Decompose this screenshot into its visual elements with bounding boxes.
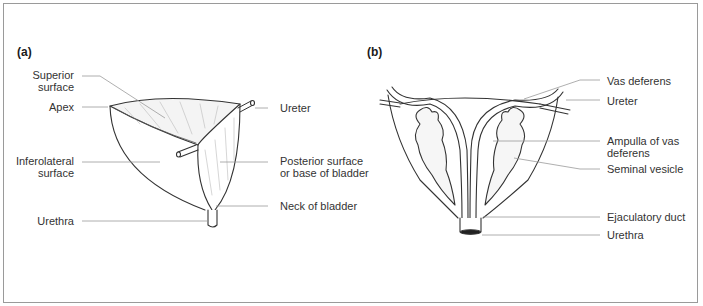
diagram-artwork: [0, 0, 703, 306]
label-ampulla-line2: deferens: [607, 147, 679, 159]
seminal-vesicle-drawing: [380, 87, 570, 234]
label-superior-line2: surface: [32, 81, 74, 93]
label-inferolateral-line1: Inferolateral: [16, 155, 74, 167]
label-vas-deferens: Vas deferens: [607, 75, 671, 87]
label-urethra-b: Urethra: [607, 229, 644, 241]
label-posterior-line2: or base of bladder: [280, 167, 369, 179]
label-inferolateral-line2: surface: [16, 167, 74, 179]
label-inferolateral-surface: Inferolateral surface: [16, 155, 74, 179]
label-apex: Apex: [49, 101, 74, 113]
label-neck-of-bladder: Neck of bladder: [280, 200, 357, 212]
label-ureter-b: Ureter: [607, 95, 638, 107]
label-ureter-a: Ureter: [280, 102, 311, 114]
panel-label-a: (a): [17, 45, 32, 59]
label-ejaculatory-duct: Ejaculatory duct: [607, 211, 685, 223]
label-posterior-line1: Posterior surface: [280, 155, 369, 167]
label-superior-surface: Superior surface: [32, 69, 74, 93]
label-posterior-surface: Posterior surface or base of bladder: [280, 155, 369, 179]
label-superior-line1: Superior: [32, 69, 74, 81]
label-ampulla-line1: Ampulla of vas: [607, 135, 679, 147]
bladder-drawing: [110, 98, 255, 227]
leader-lines-a: [82, 76, 268, 221]
label-urethra-a: Urethra: [37, 215, 74, 227]
label-seminal-vesicle: Seminal vesicle: [607, 163, 683, 175]
panel-label-b: (b): [367, 45, 382, 59]
label-ampulla-of-vas-deferens: Ampulla of vas deferens: [607, 135, 679, 159]
